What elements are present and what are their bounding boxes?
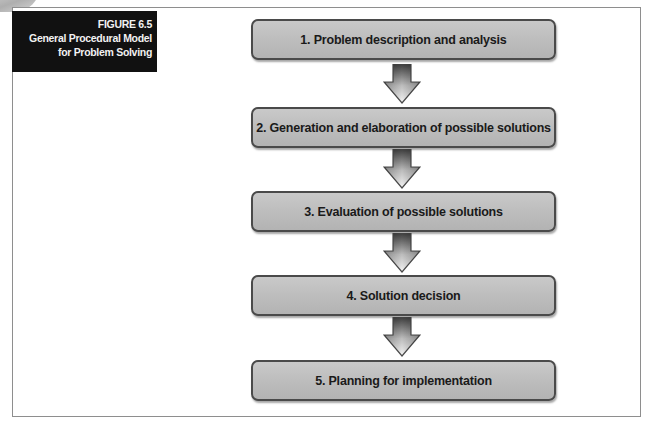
down-arrow-icon xyxy=(383,64,421,104)
flow-step-label: 2. Generation and elaboration of possibl… xyxy=(256,121,551,135)
flow-step-label: 1. Problem description and analysis xyxy=(300,33,506,47)
figure-title-line1: General Procedural Model xyxy=(12,31,152,45)
flow-step-label: 5. Planning for implementation xyxy=(315,374,492,388)
flow-step-3: 3. Evaluation of possible solutions xyxy=(251,191,556,232)
figure-number: FIGURE 6.5 xyxy=(12,17,152,31)
flow-step-1: 1. Problem description and analysis xyxy=(251,19,556,60)
flow-step-2: 2. Generation and elaboration of possibl… xyxy=(251,107,556,148)
flow-step-4: 4. Solution decision xyxy=(251,275,556,316)
figure-caption: FIGURE 6.5 General Procedural Model for … xyxy=(12,11,157,72)
flow-step-label: 3. Evaluation of possible solutions xyxy=(304,205,503,219)
down-arrow-icon xyxy=(383,149,421,189)
figure-title-line2: for Problem Solving xyxy=(12,45,152,59)
flow-step-5: 5. Planning for implementation xyxy=(251,360,556,401)
flow-step-label: 4. Solution decision xyxy=(346,289,460,303)
down-arrow-icon xyxy=(383,233,421,273)
down-arrow-icon xyxy=(383,317,421,357)
